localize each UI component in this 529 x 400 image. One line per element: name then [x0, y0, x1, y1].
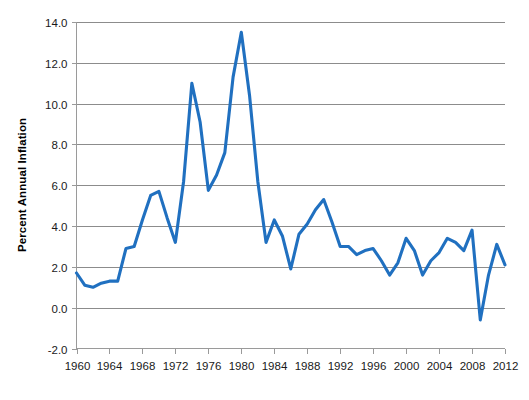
y-tick-label: 10.0	[45, 99, 67, 111]
x-axis-ticks-group	[78, 349, 506, 354]
x-tick-label: 1984	[262, 360, 288, 372]
x-tick-label: 2008	[460, 360, 486, 372]
y-axis-ticks-group	[72, 23, 77, 350]
inflation-line-chart: -2.00.02.04.06.08.010.012.014.0 19601964…	[0, 0, 529, 400]
x-tick-label: 1968	[130, 360, 156, 372]
y-tick-label: 0.0	[52, 303, 68, 315]
y-tick-label: 12.0	[45, 58, 67, 70]
x-tick-label: 1960	[65, 360, 91, 372]
x-tick-label: 1976	[196, 360, 222, 372]
y-tick-label: 2.0	[52, 262, 68, 274]
y-tick-label: -2.0	[48, 344, 68, 356]
x-tick-label: 2012	[493, 360, 519, 372]
y-tick-label: 4.0	[52, 221, 68, 233]
x-tick-label: 2000	[394, 360, 420, 372]
y-tick-label: 14.0	[45, 17, 67, 29]
x-tick-label: 2004	[427, 360, 453, 372]
x-tick-label: 1972	[163, 360, 189, 372]
x-tick-label: 1988	[295, 360, 321, 372]
y-axis-tick-labels-group: -2.00.02.04.06.08.010.012.014.0	[45, 17, 67, 356]
x-tick-label: 1980	[229, 360, 255, 372]
chart-canvas: -2.00.02.04.06.08.010.012.014.0 19601964…	[0, 0, 529, 400]
y-axis-title: Percent Annual Inflation	[16, 118, 28, 252]
x-tick-label: 1992	[328, 360, 354, 372]
x-tick-label: 1996	[361, 360, 387, 372]
y-tick-label: 6.0	[52, 180, 68, 192]
x-axis-tick-labels-group: 1960196419681972197619801984198819921996…	[65, 360, 519, 372]
y-tick-label: 8.0	[52, 139, 68, 151]
x-tick-label: 1964	[97, 360, 123, 372]
